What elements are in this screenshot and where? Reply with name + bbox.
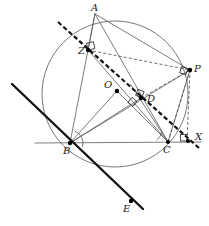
segment-BO (70, 91, 117, 143)
point-label-Z: Z (78, 46, 85, 56)
segment-AP (95, 14, 190, 70)
point-label-X: X (195, 132, 202, 142)
line-ZDX-dashed-thick (58, 22, 199, 148)
point-dot-X (186, 139, 190, 143)
point-label-O: O (104, 80, 112, 90)
point-dot-Z (86, 48, 90, 52)
point-label-E: E (123, 204, 130, 214)
point-label-D: D (147, 94, 155, 104)
geometry-figure: A Z P O D B C X E (0, 0, 209, 226)
point-dot-D (139, 96, 143, 100)
point-label-B: B (63, 146, 70, 156)
point-label-A: A (91, 3, 98, 13)
dashed-segments-group (88, 50, 190, 142)
point-label-C: C (163, 145, 171, 155)
thin-segments-group (35, 14, 201, 143)
point-dot-O (115, 89, 119, 93)
segment-CZ (88, 50, 168, 142)
segment-AC (95, 14, 168, 142)
point-dot-P (188, 68, 192, 72)
segment-BP (70, 70, 190, 143)
point-label-P: P (194, 64, 201, 74)
point-dots-group (68, 48, 192, 203)
angle-arcs-group (75, 131, 163, 147)
geometry-canvas (0, 0, 209, 226)
